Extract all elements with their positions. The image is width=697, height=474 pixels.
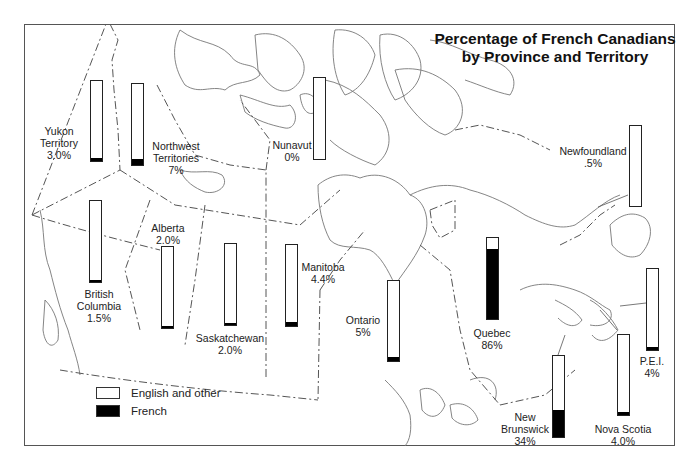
label-nova-scotia: Nova Scotia 4.0% [592, 423, 654, 447]
bar-quebec [486, 237, 499, 320]
bar-saskatchewan [224, 243, 237, 326]
bar-alberta-french [162, 326, 173, 328]
bar-ontario-french [388, 357, 399, 361]
label-saskatchewan: Saskatchewan 2.0% [195, 332, 265, 356]
legend-label-english: English and other [131, 387, 221, 399]
legend-item-english: English and other [96, 384, 221, 402]
bar-nunavut [313, 77, 326, 160]
bar-british-columbia [89, 200, 102, 283]
bar-saskatchewan-french [225, 323, 236, 325]
label-british-columbia: British Columbia 1.5% [72, 288, 126, 324]
legend-item-french: French [96, 402, 221, 420]
label-northwest-territories: Northwest Territories 7% [143, 140, 209, 176]
bar-manitoba-french [286, 322, 297, 326]
chart-title-line1: Percentage of French Canadians [424, 30, 686, 48]
bar-ontario [387, 280, 400, 362]
bar-bc-french [90, 280, 101, 282]
bar-new-brunswick-french [553, 410, 564, 437]
label-quebec: Quebec 86% [472, 327, 512, 351]
legend-swatch-french [96, 405, 120, 417]
label-newfoundland: Newfoundland .5% [558, 145, 628, 169]
bar-nwt-french [132, 159, 143, 165]
label-new-brunswick: New Brunswick 34% [500, 411, 550, 447]
bar-newfoundland [629, 125, 642, 207]
chart-title: Percentage of French Canadians by Provin… [424, 30, 686, 66]
label-ontario: Ontario 5% [343, 314, 383, 338]
legend-label-french: French [131, 405, 167, 417]
legend: English and other French [96, 384, 221, 420]
bar-nova-scotia-french [618, 412, 629, 415]
label-nunavut: Nunavut 0% [270, 139, 314, 163]
bar-nova-scotia [617, 334, 630, 416]
label-pei: P.E.I. 4% [637, 355, 667, 379]
label-manitoba: Manitoba 4.4% [299, 261, 347, 285]
label-alberta: Alberta 2.0% [148, 222, 188, 246]
bar-yukon [90, 80, 103, 162]
bar-quebec-french [487, 249, 498, 319]
bar-manitoba [285, 244, 298, 327]
chart-title-line2: by Province and Territory [424, 48, 686, 66]
bar-yukon-french [91, 158, 102, 161]
bar-new-brunswick [552, 355, 565, 438]
bar-alberta [161, 246, 174, 329]
bar-pei-french [647, 347, 658, 350]
label-yukon: Yukon Territory 3.0% [30, 125, 88, 161]
bar-pei [646, 268, 659, 351]
legend-swatch-english [96, 387, 120, 399]
